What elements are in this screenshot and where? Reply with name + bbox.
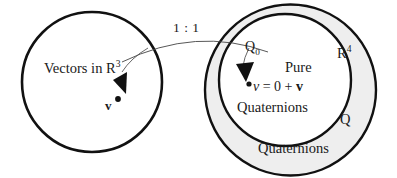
formula-operator: = 0 +: [259, 79, 296, 94]
pure-quaternion-formula: v = 0 + v: [253, 80, 303, 94]
quaternion-correspondence-figure: Vectors in R3 v 1 : 1 Q0 Pure v = 0 + v …: [0, 0, 397, 178]
q-label: Q: [340, 112, 350, 127]
r4-label-text: R: [337, 45, 347, 61]
vectors-r3-label-text: Vectors in R: [44, 60, 116, 76]
q-zero-label-text: Q: [245, 39, 255, 54]
right-vector-point-dot: [246, 81, 251, 86]
one-to-one-label: 1 : 1: [173, 21, 200, 35]
vectors-r3-exponent: 3: [116, 58, 121, 69]
left-vector-v-label: v: [105, 99, 112, 112]
pure-label: Pure: [285, 60, 312, 75]
pure-quaternions-label: Quaternions: [237, 100, 308, 115]
r4-label: R4: [337, 46, 351, 61]
formula-bold-v: v: [296, 79, 303, 94]
vectors-r3-label: Vectors in R3: [44, 61, 120, 76]
q-zero-label: Q0: [245, 40, 260, 54]
r4-exponent: 4: [347, 43, 352, 54]
left-vector-point-dot: [115, 96, 121, 102]
vectors-r3-circle: [22, 12, 162, 152]
quaternions-outer-label: Quaternions: [258, 141, 329, 156]
q-zero-subscript: 0: [255, 47, 260, 57]
